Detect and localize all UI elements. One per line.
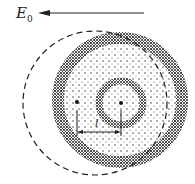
right-center-dot <box>119 101 123 105</box>
field-arrow-icon <box>38 10 144 16</box>
distance-label: l <box>95 117 99 130</box>
polarization-diagram <box>0 0 195 184</box>
left-center-dot <box>75 100 79 104</box>
electron-cloud <box>52 32 188 168</box>
